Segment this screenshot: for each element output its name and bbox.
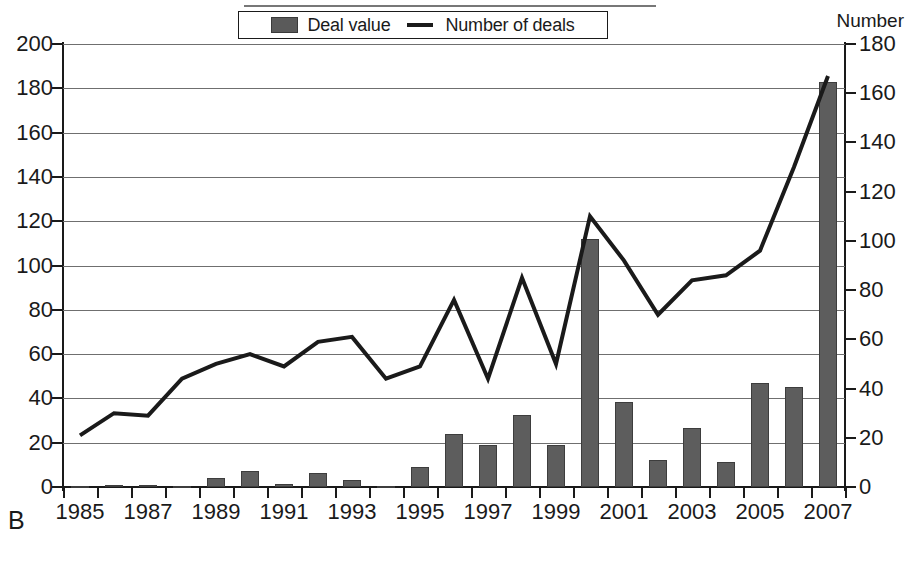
y-axis-right-tick (845, 240, 856, 242)
y-axis-right-tick-label: 20 (859, 427, 915, 449)
y-axis-left-tick-label: 200 (1, 33, 53, 55)
x-axis-tick (165, 487, 167, 498)
x-axis-tick (573, 487, 575, 498)
y-axis-left-tick-label: 160 (1, 122, 53, 144)
y-axis-left-tick-label: 60 (1, 343, 53, 365)
x-axis-tick (709, 487, 711, 498)
line-path (80, 76, 828, 435)
y-axis-left-tick (52, 265, 63, 267)
x-axis-tick (233, 487, 235, 498)
x-axis-tick (539, 487, 541, 498)
y-axis-right-tick-label: 180 (859, 33, 915, 55)
y-axis-right-tick (845, 92, 856, 94)
y-axis-left-tick-label: 0 (1, 476, 53, 498)
y-axis-left-tick (52, 87, 63, 89)
x-axis-tick (437, 487, 439, 498)
x-axis-tick (267, 487, 269, 498)
legend-swatch-deal-value (271, 17, 298, 33)
y-axis-right-tick (845, 289, 856, 291)
y-axis-left-tick-label: 180 (1, 77, 53, 99)
y-axis-right-tick (845, 43, 856, 45)
y-axis-left-tick-label: 80 (1, 299, 53, 321)
x-axis-tick (403, 487, 405, 498)
y-axis-left-tick (52, 442, 63, 444)
y-axis-right-tick-label: 0 (859, 476, 915, 498)
y-axis-left-tick (52, 43, 63, 45)
x-axis-tick-label: 2007 (783, 501, 873, 523)
right-axis-title: Number (836, 10, 904, 32)
y-axis-right-tick-label: 40 (859, 378, 915, 400)
y-axis-right-tick-label: 120 (859, 181, 915, 203)
y-axis-left-tick (52, 176, 63, 178)
x-axis-tick (131, 487, 133, 498)
chart-figure: Deal value Number of deals Number 020406… (0, 0, 918, 561)
x-axis-tick (811, 487, 813, 498)
y-axis-left-tick-label: 120 (1, 210, 53, 232)
x-axis-tick (777, 487, 779, 498)
x-axis-tick (471, 487, 473, 498)
y-axis-left-tick-label: 100 (1, 255, 53, 277)
y-axis-right-tick-label: 100 (859, 230, 915, 252)
y-axis-right-tick (845, 437, 856, 439)
x-axis-tick (63, 487, 65, 498)
y-axis-left-tick (52, 397, 63, 399)
x-axis-tick (607, 487, 609, 498)
legend-label-deal-value: Deal value (307, 15, 390, 36)
y-axis-left-tick-label: 140 (1, 166, 53, 188)
panel-label: B (8, 508, 25, 533)
plot-area: 020406080100120140160180200 020406080100… (63, 44, 845, 487)
top-clipped-rule (244, 5, 656, 7)
y-axis-right-tick (845, 338, 856, 340)
y-axis-right-tick-label: 80 (859, 279, 915, 301)
y-axis-right-tick (845, 141, 856, 143)
x-axis-tick (97, 487, 99, 498)
y-axis-right-tick (845, 191, 856, 193)
y-axis-left-tick (52, 353, 63, 355)
y-axis-left-tick (52, 486, 63, 488)
legend-label-number-of-deals: Number of deals (445, 15, 574, 36)
y-axis-right-tick (845, 388, 856, 390)
y-axis-right-tick-label: 140 (859, 131, 915, 153)
y-axis-right-tick-label: 160 (859, 82, 915, 104)
x-axis-tick (845, 487, 847, 498)
y-axis-left-tick-label: 40 (1, 387, 53, 409)
y-axis-left-tick-label: 20 (1, 432, 53, 454)
x-axis-tick (301, 487, 303, 498)
y-axis-left-tick (52, 309, 63, 311)
chart-legend: Deal value Number of deals (238, 11, 608, 39)
x-axis-tick (199, 487, 201, 498)
x-axis-tick (641, 487, 643, 498)
y-axis-left-tick (52, 132, 63, 134)
y-axis-left-tick (52, 220, 63, 222)
line-series-number-of-deals (63, 44, 845, 487)
x-axis-tick (743, 487, 745, 498)
legend-line-number-of-deals (407, 23, 433, 27)
x-axis-tick (335, 487, 337, 498)
x-axis-tick (369, 487, 371, 498)
x-axis-tick (675, 487, 677, 498)
y-axis-right-tick-label: 60 (859, 328, 915, 350)
x-axis-tick (505, 487, 507, 498)
